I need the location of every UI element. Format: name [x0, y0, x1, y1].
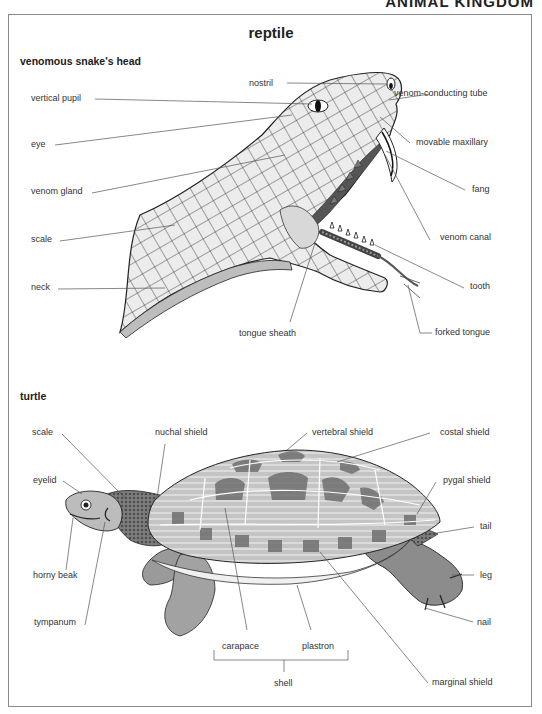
label-nail: nail: [477, 617, 491, 628]
label-tail: tail: [480, 521, 492, 532]
turtle-drawing: [66, 450, 463, 636]
label-tooth: tooth: [470, 281, 490, 292]
label-marginal-shield: marginal shield: [432, 677, 493, 688]
label-neck: neck: [31, 282, 50, 293]
label-costal-shield: costal shield: [440, 427, 490, 438]
turtle-section-title: turtle: [20, 390, 46, 402]
label-venom-canal: venom canal: [440, 232, 491, 243]
label-tongue-sheath: tongue sheath: [239, 328, 296, 339]
label-plastron: plastron: [302, 641, 334, 652]
label-carapace: carapace: [222, 641, 259, 652]
label-vertebral-shield: vertebral shield: [312, 427, 373, 438]
label-shell: shell: [274, 678, 293, 689]
label-nuchal-shield: nuchal shield: [155, 427, 208, 438]
label-leg: leg: [480, 570, 492, 581]
label-venom-gland: venom gland: [31, 186, 83, 197]
label-snake-scale: scale: [31, 234, 52, 245]
label-horny-beak: horny beak: [33, 570, 78, 581]
label-vertical-pupil: vertical pupil: [31, 93, 81, 104]
label-turtle-scale: scale: [32, 427, 53, 438]
label-tympanum: tympanum: [34, 617, 76, 628]
label-pygal-shield: pygal shield: [443, 475, 491, 486]
snake-head-drawing: [120, 73, 420, 338]
label-venom-conducting-tube: venom-conducting tube: [394, 88, 488, 99]
label-fang: fang: [472, 184, 490, 195]
label-forked-tongue: forked tongue: [435, 327, 490, 338]
snake-illustration: [0, 0, 542, 714]
label-nostril: nostril: [249, 78, 273, 89]
label-eye: eye: [31, 139, 46, 150]
label-movable-maxillary: movable maxillary: [416, 137, 488, 148]
label-eyelid: eyelid: [33, 475, 57, 486]
